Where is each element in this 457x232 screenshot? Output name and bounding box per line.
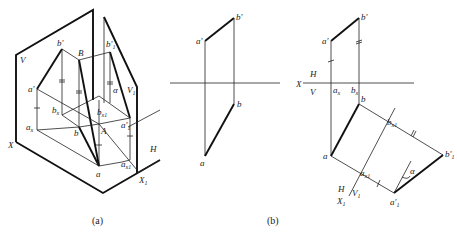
label-X-b: X (295, 79, 302, 89)
label-V1-b: V1 (352, 188, 361, 199)
label-b1-prime: b'1 (106, 39, 115, 50)
label-V1: V1 (127, 85, 136, 96)
label-a-2: a (200, 158, 205, 168)
label-b: b (74, 128, 79, 138)
label-bx1-b: bx1 (387, 117, 397, 128)
label-H: H (149, 144, 157, 154)
label-alpha: α (113, 85, 118, 95)
label-X1: X1 (138, 175, 148, 186)
line-AB (79, 60, 99, 166)
projection-diagram: V X H X1 V1 b' B b'1 a' ax bx b A bx1 α … (0, 0, 457, 232)
caption-b: (b) (267, 215, 279, 227)
a-prime-b-prime (37, 49, 62, 89)
label-a1-prime: a'1 (121, 120, 130, 131)
h-plane-outline (16, 142, 160, 193)
label-B: B (78, 48, 84, 58)
label-bx-b: bx (351, 85, 359, 96)
label-a-prime-b: a' (322, 36, 330, 46)
label-bx: bx (52, 105, 60, 116)
label-b-prime: b' (57, 38, 65, 48)
label-b1-prime-b: b'1 (445, 149, 454, 160)
label-a-prime: a' (28, 84, 36, 94)
label-a: a (96, 169, 101, 179)
label-a-prime-2: a' (196, 36, 204, 46)
label-ax-b: ax (333, 85, 341, 96)
label-a1-prime-b: a'1 (390, 197, 399, 208)
label-alpha-b: α (410, 166, 415, 176)
label-b-2: b (237, 99, 242, 109)
label-V: V (20, 55, 27, 65)
figure-a (16, 10, 160, 193)
label-bx1: bx1 (97, 107, 107, 118)
label-X1-b: X1 (336, 196, 346, 207)
label-ax1-b: ax1 (360, 168, 370, 179)
figure-b-left (170, 18, 280, 156)
label-ax: ax (26, 122, 34, 133)
label-H-b2: H (337, 184, 345, 194)
label-b-prime-2: b' (236, 12, 244, 22)
label-X: X (7, 140, 14, 150)
label-V-b: V (310, 87, 317, 97)
label-H-b: H (309, 69, 317, 79)
label-a-b: a (323, 151, 328, 161)
label-b-prime-b: b' (361, 12, 369, 22)
label-A: A (100, 126, 107, 136)
label-b-b: b (361, 94, 366, 104)
caption-a: (a) (92, 215, 103, 227)
